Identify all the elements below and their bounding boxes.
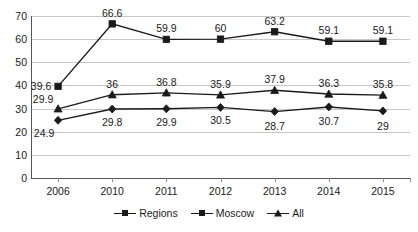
data-point-label: 24.9 [24, 128, 64, 139]
data-point-label: 35.9 [201, 79, 241, 90]
chart-legend: RegionsMoscowAll [0, 208, 418, 219]
data-point-label: 28.7 [255, 121, 295, 132]
data-point-label: 29 [363, 121, 403, 132]
data-point-marker [380, 38, 386, 44]
data-point-label: 29.9 [23, 94, 63, 105]
data-point-marker [325, 103, 332, 111]
legend-label: All [292, 208, 304, 219]
data-point-label: 29.8 [92, 117, 132, 128]
legend-label: Moscow [216, 208, 255, 219]
data-point-label: 39.6 [21, 81, 61, 92]
legend-key-marker [274, 210, 282, 217]
data-point-marker [271, 108, 278, 116]
data-point-label: 60 [201, 23, 241, 34]
diamond-marker-icon [114, 208, 136, 218]
legend-item-regions[interactable]: Regions [114, 208, 178, 219]
data-point-label: 36 [92, 79, 132, 90]
data-point-label: 63.2 [255, 16, 295, 27]
data-point-marker [271, 29, 277, 35]
legend-item-all[interactable]: All [267, 208, 304, 219]
data-point-label: 59.1 [363, 25, 403, 36]
data-point-marker [109, 21, 115, 27]
data-point-label: 35.8 [363, 79, 403, 90]
data-point-marker [109, 105, 116, 113]
square-marker-icon [191, 208, 213, 218]
data-point-marker [163, 105, 170, 113]
data-point-label: 66.6 [92, 8, 132, 19]
data-point-label: 59.1 [309, 25, 349, 36]
data-point-label: 59.9 [146, 23, 186, 34]
data-point-marker [163, 36, 169, 42]
data-point-marker [217, 103, 224, 111]
data-point-label: 36.3 [309, 78, 349, 89]
triangle-marker-icon [267, 208, 289, 218]
data-point-marker [54, 116, 61, 124]
data-point-label: 30.5 [201, 115, 241, 126]
legend-key-marker [122, 210, 128, 216]
legend-key-marker [199, 210, 205, 216]
line-chart: 706050403020100 200620102011201220132014… [0, 0, 418, 232]
legend-item-moscow[interactable]: Moscow [191, 208, 255, 219]
data-point-label: 30.7 [309, 116, 349, 127]
data-point-marker [379, 107, 386, 115]
data-point-label: 37.9 [255, 74, 295, 85]
data-point-label: 29.9 [146, 117, 186, 128]
legend-label: Regions [139, 208, 178, 219]
data-point-label: 36.8 [146, 77, 186, 88]
data-point-marker [326, 38, 332, 44]
data-point-marker [217, 36, 223, 42]
